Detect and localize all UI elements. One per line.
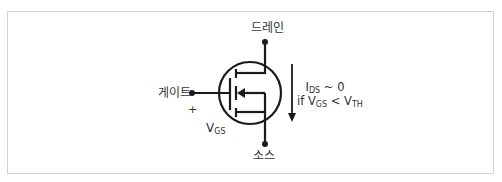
source-terminal-dot — [262, 141, 268, 147]
vgs-label: VGS — [206, 122, 226, 136]
cond-sub-th: TH — [352, 100, 363, 109]
gate-label: 게이트 — [158, 87, 191, 99]
drain-label: 드레인 — [251, 22, 284, 34]
cond-prefix: if V — [297, 94, 316, 108]
cond-sub-gs: GS — [316, 100, 327, 109]
source-label: 소스 — [253, 150, 275, 162]
gate-plus-sign: + — [188, 104, 197, 115]
drain-terminal-dot — [262, 39, 268, 45]
ids-rest: ~ 0 — [320, 80, 344, 94]
current-condition-line2: if VGS < VTH — [297, 94, 353, 112]
vgs-sub: GS — [214, 127, 225, 136]
vgs-main: V — [206, 121, 214, 135]
current-arrow-down-icon — [288, 113, 296, 122]
cond-mid: < V — [327, 94, 352, 108]
body-arrow-icon — [237, 88, 245, 98]
